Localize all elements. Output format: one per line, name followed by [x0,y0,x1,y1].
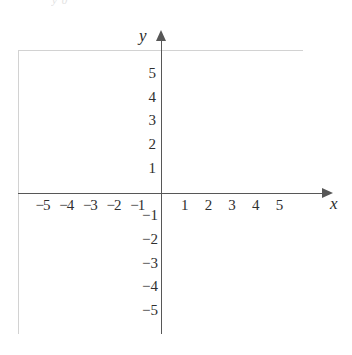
y-tick-label-pos-1: 1 [134,160,156,177]
y-tick-label-neg-5: −5 [128,302,158,319]
y-tick-label-pos-4: 4 [134,89,156,106]
x-tick-label-pos-4: 4 [244,197,268,214]
y-tick-label-neg-1: −1 [128,207,158,224]
x-tick-label-pos-5: 5 [268,197,292,214]
coordinate-plane-figure: y 0 y x −5−4−3−2−11234554321−1−2−3−4−5 [0,0,352,355]
x-tick-label-neg-3: −3 [77,197,103,214]
x-axis-line [18,193,328,194]
y-tick-label-pos-5: 5 [134,65,156,82]
x-axis-label: x [330,194,338,214]
y-tick-label-pos-2: 2 [134,136,156,153]
y-axis-line [161,36,162,334]
clipped-caption-fragment: y 0 [52,0,68,6]
x-tick-label-neg-2: −2 [101,197,127,214]
y-axis-label: y [139,26,147,46]
y-tick-label-neg-2: −2 [128,231,158,248]
y-tick-label-pos-3: 3 [134,112,156,129]
x-tick-label-neg-4: −4 [53,197,79,214]
x-tick-label-pos-3: 3 [220,197,244,214]
y-tick-label-neg-4: −4 [128,278,158,295]
x-tick-label-pos-1: 1 [173,197,197,214]
x-tick-label-pos-2: 2 [196,197,220,214]
y-tick-label-neg-3: −3 [128,255,158,272]
x-tick-label-neg-5: −5 [30,197,56,214]
y-axis-arrow-icon [156,30,166,41]
